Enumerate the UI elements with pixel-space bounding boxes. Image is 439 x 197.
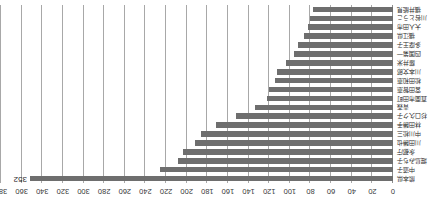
x-tick-label: 60 [327, 185, 335, 197]
bar [255, 105, 393, 111]
bar [294, 51, 393, 57]
bar-row [1, 130, 393, 139]
bar [269, 87, 393, 93]
category-label: 熊本県 [397, 174, 415, 183]
x-tick-label: 160 [222, 185, 235, 197]
bar [201, 131, 393, 137]
bar-row [1, 139, 393, 148]
x-tick-label: 140 [242, 185, 255, 197]
bar-row [1, 14, 393, 23]
bar [313, 7, 393, 13]
bar [275, 78, 393, 84]
bar [160, 167, 393, 173]
bar-row [1, 58, 393, 67]
x-tick-label: 0 [391, 185, 395, 197]
bar [286, 60, 393, 66]
bar-row [1, 121, 393, 130]
x-tick-label: 340 [36, 185, 49, 197]
category-label: 中川松三 [397, 129, 421, 138]
bar-chart: 0204060801001201401601802002202402602803… [0, 0, 439, 197]
x-tick-label: 300 [77, 185, 90, 197]
x-tick-label: 120 [263, 185, 276, 197]
category-label: 中道子 [397, 165, 415, 174]
bar [298, 42, 393, 48]
category-label: 直面市田町 [397, 94, 427, 103]
bar-series: 352 [1, 5, 393, 183]
category-label: 藤井米 [397, 58, 415, 67]
category-label: 青森 [397, 103, 409, 112]
category-label: 川谷とうこ [397, 14, 427, 23]
x-tick-label: 360 [15, 185, 28, 197]
category-label: 福井能見 [397, 5, 421, 14]
bar [183, 149, 393, 155]
bar-row [1, 50, 393, 59]
category-label: 大人田市 [397, 22, 421, 31]
category-label: 川本文郎 [397, 67, 421, 76]
x-tick-label: 200 [180, 185, 193, 197]
x-tick-label: 260 [119, 185, 132, 197]
x-tick-label: 240 [139, 185, 152, 197]
bar-row [1, 94, 393, 103]
bar-row [1, 174, 393, 183]
category-label: 堀島みち子 [397, 156, 427, 165]
x-tick-label: 280 [98, 185, 111, 197]
category-label: 杉口久ク子 [397, 111, 427, 120]
x-tick-label: 180 [201, 185, 214, 197]
bar-row [1, 85, 393, 94]
x-axis-tick-labels: 0204060801001201401601802002202402602803… [1, 183, 393, 197]
bar-row [1, 76, 393, 85]
bar [195, 140, 393, 146]
bar [310, 16, 393, 22]
bar-row [1, 41, 393, 50]
category-label: 福江県 [397, 31, 415, 40]
bar-value-label: 352 [14, 175, 27, 184]
bar [30, 176, 393, 182]
bar [308, 25, 393, 31]
bar-row [1, 165, 393, 174]
y-axis-category-labels: 熊本県中道子堀島みち子永都庁川田勝也中川松三林田勝手杉口久ク子青森直面市田町宮田… [395, 5, 439, 183]
bar-row [1, 112, 393, 121]
category-label: 多摩王子 [397, 40, 421, 49]
bar-row [1, 103, 393, 112]
category-label: 松田和恵 [397, 76, 421, 85]
bar [304, 33, 393, 39]
bar-row [1, 32, 393, 41]
x-tick-label: 40 [348, 185, 356, 197]
plot-area: 352 [1, 5, 393, 183]
bar [267, 96, 393, 102]
bar [277, 69, 393, 75]
x-tick-label: 220 [160, 185, 173, 197]
bar-row [1, 156, 393, 165]
x-tick-label: 20 [368, 185, 376, 197]
category-label: 四国第一 [397, 49, 421, 58]
x-tick-label: 80 [306, 185, 314, 197]
x-tick-label: 320 [57, 185, 70, 197]
category-label: 林田勝手 [397, 120, 421, 129]
x-tick-label: 100 [284, 185, 297, 197]
bar [178, 158, 393, 164]
bar-row [1, 67, 393, 76]
category-label: 川田勝也 [397, 138, 421, 147]
bar-row [1, 23, 393, 32]
bar [236, 114, 393, 120]
bar [216, 122, 393, 128]
bar-row [1, 5, 393, 14]
category-label: 永都庁 [397, 147, 415, 156]
x-tick-label: 380 [0, 185, 7, 197]
category-label: 宮田智恵 [397, 85, 421, 94]
bar-row [1, 147, 393, 156]
